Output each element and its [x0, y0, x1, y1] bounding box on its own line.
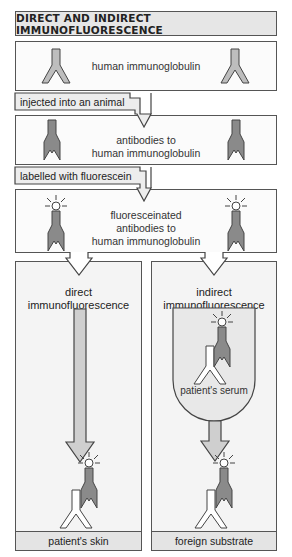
human-immunoglobulin-icon-left: [42, 49, 70, 83]
patient-serum-label: patient's serum: [172, 384, 256, 397]
direct-bound-antibody-icon: [81, 468, 97, 508]
indirect-bound-antibody-icon: [216, 468, 232, 508]
direct-long-arrow: [66, 309, 94, 462]
fluorescein-icon-left: [45, 195, 67, 210]
fluoresceinated-antibody-icon-left: [48, 211, 64, 251]
anti-ig-icon-right: [228, 120, 244, 160]
human-immunoglobulin-icon-right: [221, 49, 249, 83]
fluoresceinated-antibody-icon-right: [228, 211, 244, 251]
diagram-graphics: [0, 0, 292, 557]
transition-label-injected: injected into an animal: [20, 96, 124, 109]
anti-ig-icon-left: [44, 120, 60, 160]
arrow-to-indirect: [201, 252, 227, 275]
arrow-to-direct: [66, 252, 92, 275]
fluorescein-icon-right: [225, 195, 247, 210]
transition-label-labelled: labelled with fluorescein: [20, 170, 131, 183]
